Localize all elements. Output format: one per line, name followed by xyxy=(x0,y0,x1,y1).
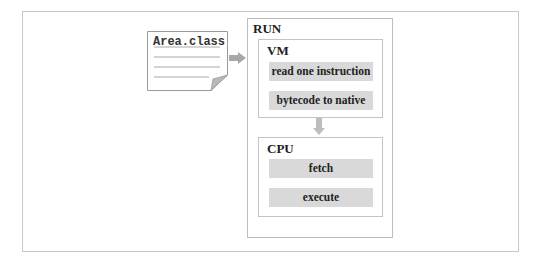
vm-box: VM read one instruction bytecode to nati… xyxy=(258,39,383,118)
cpu-step-fetch: fetch xyxy=(269,159,373,178)
arrow-right-icon xyxy=(229,52,247,64)
file-name: Area.class xyxy=(153,35,225,49)
run-label: RUN xyxy=(253,21,281,37)
cpu-box: CPU fetch execute xyxy=(258,137,383,217)
arrow-down-icon xyxy=(313,118,325,136)
cpu-step-execute: execute xyxy=(269,188,373,207)
cpu-label: CPU xyxy=(267,141,294,157)
vm-label: VM xyxy=(267,43,289,59)
vm-step-bytecode-to-native: bytecode to native xyxy=(269,91,373,110)
class-file-document: Area.class xyxy=(147,31,228,90)
vm-step-read-instruction: read one instruction xyxy=(269,62,373,81)
